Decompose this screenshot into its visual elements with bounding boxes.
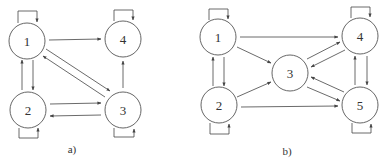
edge-b-5-to-3	[311, 77, 344, 92]
edge-a-3-to-2	[50, 115, 101, 116]
graph-canvas: 1 2 3 4 a)	[0, 0, 388, 163]
edge-a-3-self-loop	[114, 128, 134, 137]
edge-b-5-self-loop	[352, 123, 371, 133]
edge-a-1-to-3	[46, 49, 110, 91]
node-a-3: 3	[105, 92, 141, 128]
edge-a-1-self-loop	[18, 11, 37, 23]
caption-a: a)	[68, 143, 77, 156]
svg-text:4: 4	[357, 29, 364, 44]
edge-b-2-to-3	[237, 82, 271, 97]
node-a-2: 2	[10, 92, 46, 128]
caption-b: b)	[282, 145, 292, 158]
node-a-4: 4	[105, 21, 141, 57]
node-b-2: 2	[201, 87, 237, 123]
svg-text:5: 5	[357, 98, 364, 113]
svg-text:3: 3	[120, 103, 127, 118]
svg-text:1: 1	[24, 34, 31, 49]
edge-a-2-to-3	[50, 103, 101, 104]
edge-a-1-to-4	[49, 39, 101, 40]
edge-a-4-self-loop	[114, 10, 133, 21]
edge-a-2-self-loop	[19, 128, 38, 138]
svg-text:3: 3	[287, 66, 294, 81]
edge-b-2-self-loop	[210, 123, 229, 134]
diagram-b: 1 2 3 4 5 b)	[200, 7, 378, 158]
edge-b-1-self-loop	[209, 9, 228, 20]
node-b-3: 3	[272, 55, 308, 91]
edge-b-1-to-3	[237, 47, 271, 63]
edge-a-3-to-1	[43, 56, 105, 97]
node-b-1: 1	[200, 19, 236, 55]
svg-text:1: 1	[215, 30, 222, 45]
svg-text:4: 4	[120, 32, 127, 47]
diagram-a: 1 2 3 4 a)	[9, 10, 141, 156]
node-a-1: 1	[9, 23, 45, 59]
edge-b-2-to-5	[241, 106, 338, 107]
edge-b-3-to-5	[307, 87, 340, 101]
edge-b-4-to-3	[311, 50, 345, 67]
svg-text:2: 2	[216, 98, 223, 113]
svg-text:2: 2	[25, 103, 32, 118]
node-b-5: 5	[342, 87, 378, 123]
edge-b-3-to-4	[307, 42, 340, 59]
node-b-4: 4	[342, 18, 378, 54]
edge-b-4-self-loop	[351, 7, 370, 18]
